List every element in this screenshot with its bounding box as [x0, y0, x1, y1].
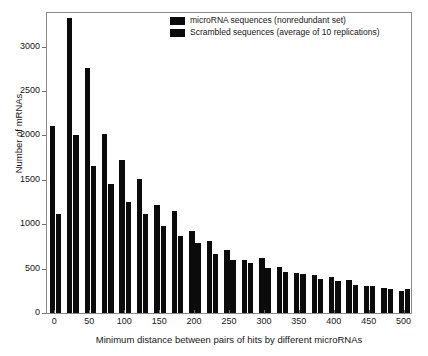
bar: [318, 279, 323, 313]
x-tick-label: 100: [117, 316, 132, 326]
legend-label: microRNA sequences (nonredundant set): [190, 16, 346, 25]
bar: [67, 18, 72, 313]
bar: [242, 260, 247, 313]
x-tick-mark: [54, 310, 55, 314]
legend-item: Scrambled sequences (average of 10 repli…: [170, 28, 379, 37]
bar: [265, 268, 270, 313]
bar: [248, 263, 253, 313]
bar: [224, 250, 229, 313]
x-tick-label: 50: [84, 316, 94, 326]
x-tick-label: 200: [187, 316, 202, 326]
bar: [335, 281, 340, 313]
y-tick-label: 1000: [20, 218, 40, 228]
bar: [353, 285, 358, 313]
x-tick-label: 300: [256, 316, 271, 326]
bar: [189, 231, 194, 313]
x-tick-label: 350: [291, 316, 306, 326]
x-tick-mark: [89, 310, 90, 314]
bar: [300, 274, 305, 313]
bar: [364, 286, 369, 313]
legend-swatch-icon: [170, 17, 185, 25]
x-tick-label: 450: [361, 316, 376, 326]
bar: [73, 135, 78, 313]
x-tick-mark: [334, 310, 335, 314]
x-tick-mark: [299, 310, 300, 314]
x-tick-label: 500: [396, 316, 411, 326]
x-tick-label: 400: [326, 316, 341, 326]
bar: [312, 275, 317, 313]
bar: [207, 241, 212, 313]
bar: [195, 243, 200, 313]
figure-container: 050010001500200025003000 Number of mRNAs…: [0, 0, 428, 356]
plot-frame: [46, 12, 412, 314]
bar: [154, 205, 159, 313]
x-tick-mark: [404, 310, 405, 314]
legend-label: Scrambled sequences (average of 10 repli…: [190, 28, 379, 37]
bar: [259, 258, 264, 313]
x-tick-mark: [369, 310, 370, 314]
y-axis-title: Number of mRNAs: [13, 59, 24, 209]
bar: [405, 289, 410, 313]
bar: [230, 260, 235, 313]
legend-item: microRNA sequences (nonredundant set): [170, 16, 379, 25]
x-axis-title: Minimum distance between pairs of hits b…: [46, 334, 412, 345]
bar: [283, 272, 288, 313]
y-tick-label: 0: [35, 307, 40, 317]
bar: [85, 68, 90, 313]
chart-legend: microRNA sequences (nonredundant set)Scr…: [170, 16, 379, 37]
bar: [370, 286, 375, 313]
bar: [143, 214, 148, 313]
bar: [294, 273, 299, 313]
bar: [178, 236, 183, 313]
plot-area: [47, 13, 411, 313]
bar: [102, 134, 107, 313]
bar: [329, 277, 334, 313]
x-tick-mark: [124, 310, 125, 314]
x-tick-mark: [159, 310, 160, 314]
bar: [161, 226, 166, 313]
bar: [56, 214, 61, 313]
x-tick-label: 150: [152, 316, 167, 326]
bar: [388, 289, 393, 313]
y-tick-label: 500: [25, 263, 40, 273]
x-tick-label: 0: [52, 316, 57, 326]
bar: [213, 254, 218, 313]
x-tick-mark: [229, 310, 230, 314]
bar: [126, 202, 131, 313]
bar: [137, 179, 142, 313]
legend-swatch-icon: [170, 29, 185, 37]
bar: [91, 166, 96, 313]
bar: [277, 267, 282, 313]
bar: [172, 211, 177, 313]
bar: [346, 280, 351, 313]
x-tick-label: 250: [221, 316, 236, 326]
bar: [119, 160, 124, 313]
x-tick-mark: [264, 310, 265, 314]
x-tick-mark: [194, 310, 195, 314]
bar: [108, 184, 113, 313]
bar: [381, 288, 386, 313]
y-tick-label: 3000: [20, 41, 40, 51]
bar: [50, 126, 55, 313]
